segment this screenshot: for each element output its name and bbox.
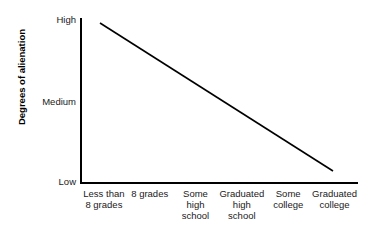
alienation-education-chart: Degrees of alienation High Medium Low Le… <box>0 0 381 238</box>
x-label-graduated-college: Graduated college <box>311 188 358 210</box>
x-label-less-than-8-grades: Less than 8 grades <box>81 188 127 210</box>
alienation-trend-line <box>100 23 333 171</box>
x-label-graduated-high-school: Graduated high school <box>218 188 265 221</box>
x-label-some-college: Some college <box>265 188 311 210</box>
x-axis-category-labels: Less than 8 grades 8 grades Some high sc… <box>81 188 358 234</box>
x-label-8-grades: 8 grades <box>127 188 173 199</box>
x-label-some-high-school: Some high school <box>173 188 219 221</box>
